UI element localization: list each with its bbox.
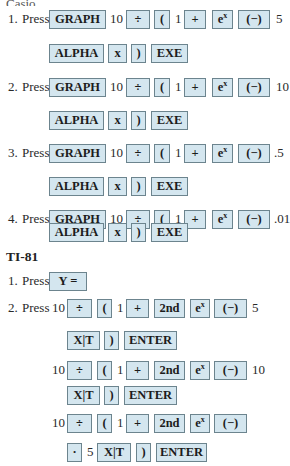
exp-sup: x bbox=[223, 211, 227, 220]
step-verb: Press bbox=[22, 77, 49, 97]
literal-10: 10 bbox=[52, 413, 65, 433]
key-right-paren[interactable]: ) bbox=[131, 177, 146, 196]
literal-1: 1 bbox=[175, 143, 182, 163]
key-negative[interactable]: (−) bbox=[238, 78, 270, 97]
key-plus[interactable]: + bbox=[126, 299, 149, 318]
literal-1: 1 bbox=[117, 360, 124, 380]
literal-1: 1 bbox=[117, 413, 124, 433]
step-number: 2. bbox=[8, 298, 18, 318]
key-right-paren[interactable]: ) bbox=[131, 44, 146, 63]
key-divide[interactable]: ÷ bbox=[67, 361, 92, 380]
step-number: 2. bbox=[8, 77, 18, 97]
step-number: 4. bbox=[8, 209, 18, 229]
key-enter[interactable]: ENTER bbox=[156, 443, 207, 462]
key-alpha[interactable]: ALPHA bbox=[49, 44, 104, 63]
key-right-paren[interactable]: ) bbox=[104, 331, 119, 350]
key-negative[interactable]: (−) bbox=[238, 10, 270, 29]
key-divide[interactable]: ÷ bbox=[126, 78, 150, 97]
ti81-heading: TI-81 bbox=[6, 248, 38, 266]
literal-1: 1 bbox=[175, 77, 182, 97]
key-exp[interactable]: ex bbox=[212, 210, 233, 229]
key-plus[interactable]: + bbox=[126, 414, 149, 433]
key-x-t[interactable]: X|T bbox=[67, 331, 100, 350]
key-graph[interactable]: GRAPH bbox=[49, 144, 106, 163]
key-exe[interactable]: EXE bbox=[151, 44, 188, 63]
key-exe[interactable]: EXE bbox=[151, 111, 188, 130]
key-alpha[interactable]: ALPHA bbox=[49, 177, 104, 196]
literal-1: 1 bbox=[175, 9, 182, 29]
key-divide[interactable]: ÷ bbox=[67, 299, 92, 318]
key-x-t[interactable]: X|T bbox=[97, 443, 131, 462]
literal-10: 10 bbox=[110, 77, 123, 97]
key-graph[interactable]: GRAPH bbox=[49, 10, 106, 29]
step-argument: 5 bbox=[252, 298, 259, 318]
key-right-paren[interactable]: ) bbox=[104, 386, 119, 405]
key-exe[interactable]: EXE bbox=[151, 177, 188, 196]
key-exp[interactable]: ex bbox=[190, 299, 210, 318]
key-x[interactable]: x bbox=[108, 44, 127, 63]
key-left-paren[interactable]: ( bbox=[97, 414, 112, 433]
key-2nd[interactable]: 2nd bbox=[154, 299, 185, 318]
key-plus[interactable]: + bbox=[184, 78, 206, 97]
step-number: 1. bbox=[8, 271, 18, 291]
key-negative[interactable]: (−) bbox=[238, 210, 270, 229]
key-left-paren[interactable]: ( bbox=[97, 361, 112, 380]
key-alpha[interactable]: ALPHA bbox=[49, 111, 104, 130]
key-left-paren[interactable]: ( bbox=[154, 10, 170, 29]
step-number: 1. bbox=[8, 9, 18, 29]
key-negative[interactable]: (−) bbox=[238, 144, 270, 163]
step-argument: 10 bbox=[276, 77, 289, 97]
literal-5: 5 bbox=[87, 442, 94, 462]
key-exp[interactable]: ex bbox=[212, 78, 233, 97]
exp-sup: x bbox=[201, 300, 205, 309]
step-argument: .01 bbox=[274, 209, 290, 229]
exp-sup: x bbox=[201, 415, 205, 424]
key-exe[interactable]: EXE bbox=[151, 223, 188, 242]
key-negative[interactable]: (−) bbox=[214, 299, 247, 318]
key-y-equals[interactable]: Y = bbox=[49, 272, 87, 291]
key-divide[interactable]: ÷ bbox=[126, 10, 150, 29]
literal-10: 10 bbox=[110, 9, 123, 29]
exp-sup: x bbox=[201, 362, 205, 371]
key-x[interactable]: x bbox=[108, 177, 127, 196]
exp-sup: x bbox=[223, 145, 227, 154]
key-exp[interactable]: ex bbox=[190, 361, 210, 380]
key-plus[interactable]: + bbox=[184, 144, 206, 163]
key-x-t[interactable]: X|T bbox=[67, 386, 100, 405]
casio-heading-cut: Casio bbox=[6, 0, 36, 6]
key-alpha[interactable]: ALPHA bbox=[49, 223, 104, 242]
key-divide[interactable]: ÷ bbox=[67, 414, 92, 433]
key-divide[interactable]: ÷ bbox=[126, 144, 150, 163]
key-plus[interactable]: + bbox=[184, 10, 206, 29]
exp-sup: x bbox=[223, 11, 227, 20]
key-exp[interactable]: ex bbox=[212, 10, 233, 29]
key-negative[interactable]: (−) bbox=[214, 361, 247, 380]
step-argument: 10 bbox=[252, 360, 265, 380]
step-argument: .5 bbox=[274, 143, 284, 163]
key-negative[interactable]: (−) bbox=[214, 414, 247, 433]
exp-sup: x bbox=[223, 79, 227, 88]
key-x[interactable]: x bbox=[108, 223, 127, 242]
key-graph[interactable]: GRAPH bbox=[49, 78, 106, 97]
key-left-paren[interactable]: ( bbox=[97, 299, 112, 318]
key-exp[interactable]: ex bbox=[190, 414, 210, 433]
key-left-paren[interactable]: ( bbox=[154, 78, 170, 97]
step-verb: Press bbox=[22, 298, 49, 318]
step-verb: Press bbox=[22, 209, 49, 229]
key-2nd[interactable]: 2nd bbox=[154, 414, 185, 433]
key-exp[interactable]: ex bbox=[212, 144, 233, 163]
key-x[interactable]: x bbox=[108, 111, 127, 130]
key-right-paren[interactable]: ) bbox=[131, 111, 146, 130]
key-right-paren[interactable]: ) bbox=[136, 443, 151, 462]
key-plus[interactable]: + bbox=[126, 361, 149, 380]
step-number: 3. bbox=[8, 143, 18, 163]
literal-10: 10 bbox=[110, 143, 123, 163]
step-argument: 5 bbox=[276, 9, 283, 29]
key-decimal[interactable]: · bbox=[67, 443, 82, 462]
key-2nd[interactable]: 2nd bbox=[154, 361, 185, 380]
key-enter[interactable]: ENTER bbox=[124, 386, 177, 405]
literal-10: 10 bbox=[52, 360, 65, 380]
key-left-paren[interactable]: ( bbox=[154, 144, 170, 163]
key-right-paren[interactable]: ) bbox=[131, 223, 146, 242]
key-enter[interactable]: ENTER bbox=[124, 331, 177, 350]
